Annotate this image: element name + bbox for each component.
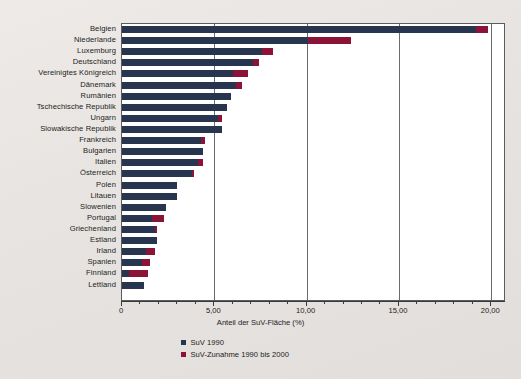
bar-segment-suv-zunahme: [253, 59, 259, 66]
y-axis-label: Litauen: [0, 190, 119, 201]
stacked-bar: [122, 226, 157, 233]
bar-row: [122, 268, 504, 279]
bar-segment-suv-1990: [122, 148, 203, 155]
bar-segment-suv-zunahme: [129, 270, 147, 277]
y-axis-labels: BelgienNiederlandeLuxemburgDeutschlandVe…: [0, 23, 119, 301]
y-axis-label: Finnland: [0, 267, 119, 278]
bar-segment-suv-zunahme: [476, 26, 487, 33]
x-axis-minor-tick: [453, 301, 454, 304]
bar-row: [122, 191, 504, 202]
bar-rows: [122, 24, 504, 300]
bar-row: [122, 213, 504, 224]
bar-segment-suv-1990: [122, 93, 231, 100]
bar-row: [122, 135, 504, 146]
y-axis-label: Niederlande: [0, 34, 119, 45]
x-axis-minor-tick: [435, 301, 436, 304]
y-axis-label: Lettland: [0, 279, 119, 290]
x-axis-minor-tick: [139, 301, 140, 304]
bar-segment-suv-zunahme: [201, 137, 205, 144]
legend-item: SuV-Zunahme 1990 bis 2000: [181, 350, 341, 359]
bar-segment-suv-1990: [122, 82, 236, 89]
x-axis-minor-tick: [361, 301, 362, 304]
x-axis-minor-tick: [250, 301, 251, 304]
bar-row: [122, 102, 504, 113]
x-axis-minor-tick: [269, 301, 270, 304]
x-axis-minor-tick: [195, 301, 196, 304]
bar-row: [122, 146, 504, 157]
bar-segment-suv-1990: [122, 48, 262, 55]
stacked-bar: [122, 37, 351, 44]
x-axis-minor-tick: [232, 301, 233, 304]
bar-segment-suv-1990: [122, 37, 308, 44]
bar-row: [122, 35, 504, 46]
bar-segment-suv-1990: [122, 226, 155, 233]
stacked-bar: [122, 215, 164, 222]
x-axis-tick-label: 0: [119, 306, 123, 315]
bar-segment-suv-1990: [122, 26, 476, 33]
bar-row: [122, 280, 504, 291]
bar-segment-suv-1990: [122, 159, 198, 166]
bar-segment-suv-1990: [122, 259, 142, 266]
plot-area: [121, 23, 505, 301]
bar-row: [122, 224, 504, 235]
y-axis-label: Portugal: [0, 212, 119, 223]
bar-segment-suv-1990: [122, 70, 233, 77]
bar-row: [122, 202, 504, 213]
bar-segment-suv-zunahme: [152, 215, 165, 222]
stacked-bar: [122, 237, 157, 244]
y-axis-label: Belgien: [0, 23, 119, 34]
y-axis-label: Slowakische Republik: [0, 123, 119, 134]
bar-row: [122, 257, 504, 268]
x-axis-tick-label: 20,00: [481, 306, 500, 315]
x-axis-line: [121, 301, 505, 302]
bar-segment-suv-zunahme: [308, 37, 350, 44]
bar-row: [122, 235, 504, 246]
y-axis-label: Frankreich: [0, 134, 119, 145]
bar-segment-suv-1990: [122, 59, 253, 66]
bar-row: [122, 24, 504, 35]
x-axis-tick-label: 10,00: [296, 306, 315, 315]
x-axis-minor-tick: [287, 301, 288, 304]
bar-segment-suv-zunahme: [198, 159, 204, 166]
bar-segment-suv-1990: [122, 215, 152, 222]
bar-segment-suv-zunahme: [146, 248, 155, 255]
bar-segment-suv-zunahme: [218, 115, 222, 122]
y-axis-label: Luxemburg: [0, 45, 119, 56]
y-axis-label: Slowenien: [0, 201, 119, 212]
stacked-bar: [122, 282, 144, 289]
stacked-bar: [122, 93, 231, 100]
stacked-bar: [122, 137, 205, 144]
bar-segment-suv-1990: [122, 115, 218, 122]
bar-row: [122, 124, 504, 135]
stacked-bar: [122, 193, 177, 200]
x-axis-tick-label: 15,00: [388, 306, 407, 315]
stacked-bar: [122, 115, 222, 122]
x-axis-title: Anteil der SuV-Fläche (%): [0, 318, 521, 327]
bar-segment-suv-1990: [122, 126, 222, 133]
chart-legend: SuV 1990SuV-Zunahme 1990 bis 2000: [0, 338, 521, 359]
bar-segment-suv-zunahme: [262, 48, 273, 55]
y-axis-label: Vereinigtes Königreich: [0, 67, 119, 78]
bar-row: [122, 246, 504, 257]
x-axis-tick-label: 5,00: [206, 306, 221, 315]
bar-row: [122, 80, 504, 91]
stacked-bar: [122, 248, 155, 255]
stacked-bar: [122, 259, 150, 266]
bar-segment-suv-1990: [122, 137, 201, 144]
x-axis-minor-tick: [472, 301, 473, 304]
y-axis-label: Estland: [0, 234, 119, 245]
bar-row: [122, 168, 504, 179]
y-axis-label: Bulgarien: [0, 145, 119, 156]
y-axis-label: Ungarn: [0, 112, 119, 123]
y-axis-label: Griechenland: [0, 223, 119, 234]
stacked-bar: [122, 170, 194, 177]
stacked-bar: [122, 82, 242, 89]
bar-segment-suv-zunahme: [155, 226, 157, 233]
stacked-bar: [122, 48, 273, 55]
y-axis-label: Rumänien: [0, 90, 119, 101]
bar-segment-suv-zunahme: [233, 70, 248, 77]
square-swatch-navy: [181, 340, 186, 345]
x-axis-minor-tick: [379, 301, 380, 304]
square-swatch-crimson: [181, 352, 186, 357]
x-axis-minor-tick: [158, 301, 159, 304]
